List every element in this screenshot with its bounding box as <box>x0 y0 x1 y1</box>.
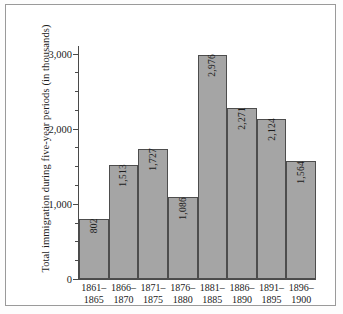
x-axis-label-line1: 1891– <box>257 282 287 294</box>
bar-value-label: 802 <box>89 218 99 233</box>
x-axis-label-line2: 1900 <box>286 294 316 306</box>
x-axis-label-line1: 1886– <box>227 282 257 294</box>
bar: 2,976 <box>198 55 228 279</box>
plot-area: 01,0002,0003,000 8021,5131,7271,0862,976… <box>78 15 317 280</box>
x-axis-label: 1876–1880 <box>168 282 198 305</box>
bar-value-label: 1,086 <box>178 196 188 219</box>
x-axis-label-line1: 1881– <box>198 282 228 294</box>
x-axis-label-line2: 1875 <box>138 294 168 306</box>
x-axis-label-group: 1861–18651866–18701871–18751876–18801881… <box>79 282 316 308</box>
y-axis-tick-label: 2,000 <box>48 123 72 134</box>
x-axis-label: 1861–1865 <box>79 282 109 305</box>
bar-value-label: 2,124 <box>267 118 277 141</box>
x-axis-label-line2: 1880 <box>168 294 198 306</box>
x-axis-label-line2: 1870 <box>109 294 139 306</box>
bar-value-label: 1,564 <box>296 160 306 183</box>
x-axis-label: 1896–1900 <box>286 282 316 305</box>
bar: 1,086 <box>168 197 198 279</box>
x-axis-label: 1886–1890 <box>227 282 257 305</box>
bar: 1,513 <box>109 165 139 279</box>
x-axis-label: 1881–1885 <box>198 282 228 305</box>
x-axis-label-line1: 1871– <box>138 282 168 294</box>
x-axis-label-line2: 1895 <box>257 294 287 306</box>
bar-group: 8021,5131,7271,0862,9762,2712,1241,564 <box>79 15 316 280</box>
x-axis-label: 1871–1875 <box>138 282 168 305</box>
x-axis-label-line1: 1896– <box>286 282 316 294</box>
y-axis-tick-label: 0 <box>67 274 72 285</box>
bar: 1,564 <box>286 161 316 279</box>
bar: 2,271 <box>227 108 257 279</box>
bar: 802 <box>79 219 109 279</box>
x-axis-label-line2: 1885 <box>198 294 228 306</box>
y-axis-title: Total immigration during five-year perio… <box>40 24 51 274</box>
y-axis-tick-label: 3,000 <box>48 48 72 59</box>
bar-value-label: 1,513 <box>118 164 128 187</box>
bar-value-label: 2,271 <box>237 107 247 130</box>
bar: 1,727 <box>138 149 168 279</box>
x-axis-label-line2: 1890 <box>227 294 257 306</box>
x-axis-label: 1866–1870 <box>109 282 139 305</box>
x-axis-label-line1: 1876– <box>168 282 198 294</box>
x-axis-label-line1: 1861– <box>79 282 109 294</box>
y-axis-tick-label: 1,000 <box>48 198 72 209</box>
bar-value-label: 2,976 <box>207 54 217 77</box>
bar: 2,124 <box>257 119 287 279</box>
bar-value-label: 1,727 <box>148 148 158 171</box>
figure-root: Total immigration during five-year perio… <box>0 0 343 314</box>
figure-border-frame: Total immigration during five-year perio… <box>5 4 336 306</box>
x-axis-label-line2: 1865 <box>79 294 109 306</box>
x-axis-label-line1: 1866– <box>109 282 139 294</box>
x-axis-label: 1891–1895 <box>257 282 287 305</box>
